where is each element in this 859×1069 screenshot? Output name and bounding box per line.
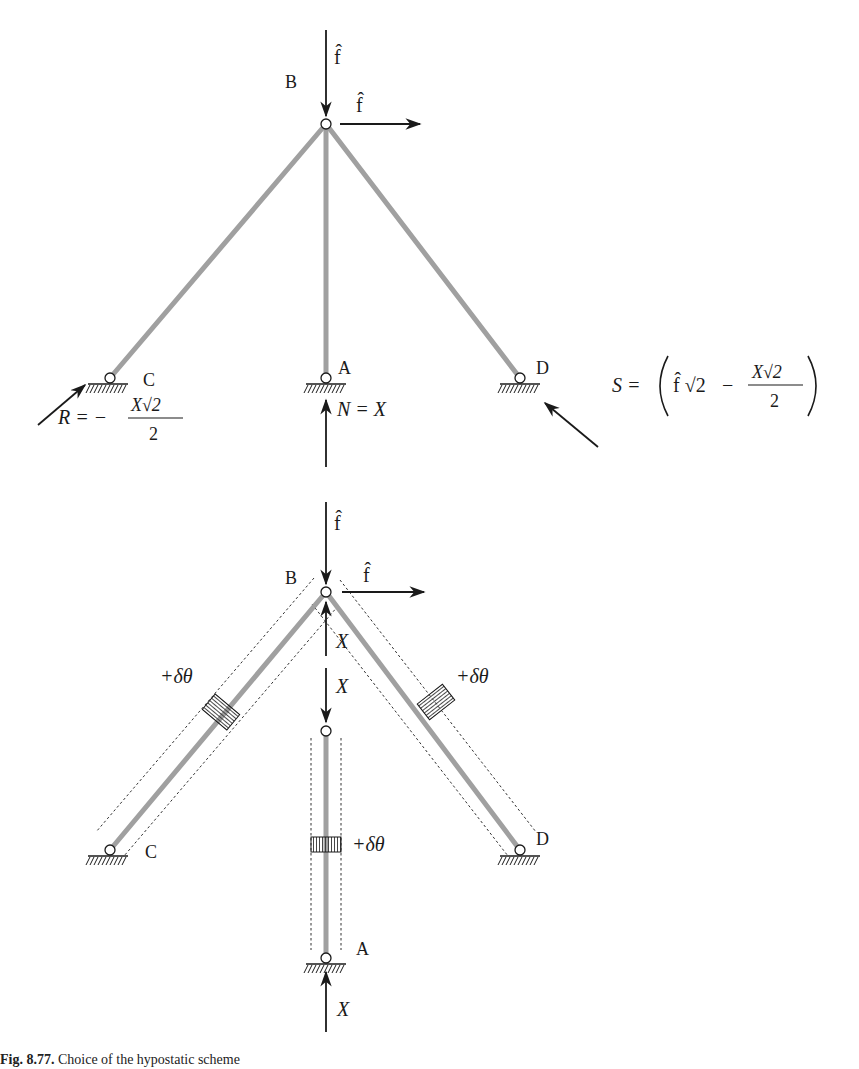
rotation-center-label: +δθ bbox=[352, 833, 385, 855]
force-X-down-label: X bbox=[335, 675, 349, 697]
reaction-R-formula: R = − X√2 2 bbox=[57, 395, 183, 444]
force-X-bottom-label: X bbox=[336, 998, 350, 1020]
node-A-label: A bbox=[338, 358, 351, 378]
rotation-left-label: +δθ bbox=[160, 665, 193, 687]
rotation-block-right bbox=[417, 684, 455, 719]
rotation-right-label: +δθ bbox=[456, 665, 489, 687]
figure-caption-text: Choice of the hypostatic scheme bbox=[58, 1052, 240, 1067]
support-D bbox=[498, 373, 540, 393]
load-vertical-label: f̂ bbox=[334, 44, 343, 68]
node-A-bottom-label: A bbox=[356, 939, 369, 959]
rod-BC bbox=[110, 124, 326, 378]
top-diagram: B f̂ f̂ C A D R = − X√2 2 N = X S = f̂ √… bbox=[38, 30, 816, 467]
figure-caption: Fig. 8.77. Choice of the hypostatic sche… bbox=[0, 1052, 240, 1068]
figure-number: Fig. 8.77. bbox=[0, 1052, 54, 1067]
support-D-bottom bbox=[498, 845, 540, 865]
svg-text:R = −: R = − bbox=[57, 406, 107, 428]
support-A-bottom bbox=[304, 953, 346, 973]
load-vertical-bottom-label: f̂ bbox=[334, 510, 343, 534]
reaction-N-formula: N = X bbox=[336, 398, 387, 420]
bottom-diagram: B f̂ f̂ X X X +δθ +δθ +δθ C D A bbox=[86, 502, 549, 1032]
svg-text:−: − bbox=[722, 374, 733, 396]
force-X-up-label: X bbox=[335, 630, 349, 652]
node-C-label: C bbox=[143, 370, 155, 390]
node-B bbox=[321, 119, 331, 129]
node-A-top-cut bbox=[321, 726, 331, 736]
deformation-outlines bbox=[96, 578, 536, 950]
svg-text:S =: S = bbox=[612, 374, 641, 396]
node-C-bottom-label: C bbox=[145, 842, 157, 862]
support-C bbox=[86, 373, 128, 393]
rod-BD bbox=[326, 124, 520, 378]
svg-text:2: 2 bbox=[770, 391, 779, 411]
support-C-bottom bbox=[86, 845, 128, 865]
load-horizontal-label: f̂ bbox=[356, 92, 365, 116]
node-B-label: B bbox=[285, 72, 297, 92]
node-B-bottom-label: B bbox=[285, 568, 297, 588]
svg-text:X√2: X√2 bbox=[130, 395, 161, 415]
rotation-block-center bbox=[311, 837, 341, 852]
top-rods bbox=[110, 124, 520, 378]
node-D-label: D bbox=[536, 358, 549, 378]
bottom-rods bbox=[110, 592, 520, 958]
structure-diagram: B f̂ f̂ C A D R = − X√2 2 N = X S = f̂ √… bbox=[0, 0, 859, 1069]
load-horizontal-bottom-label: f̂ bbox=[363, 562, 372, 586]
svg-text:X√2: X√2 bbox=[751, 362, 782, 382]
reaction-S-arrow bbox=[545, 403, 598, 447]
reaction-S-formula: S = f̂ √2 − X√2 2 bbox=[612, 356, 816, 416]
svg-text:2: 2 bbox=[149, 424, 158, 444]
node-B-bottom bbox=[321, 587, 331, 597]
svg-text:f̂ √2: f̂ √2 bbox=[673, 372, 706, 396]
node-D-bottom-label: D bbox=[536, 829, 549, 849]
